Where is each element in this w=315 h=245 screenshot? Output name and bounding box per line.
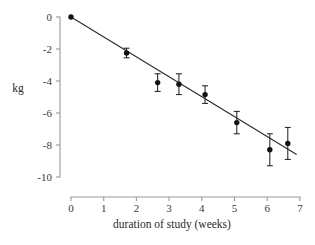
data-point-marker bbox=[124, 50, 129, 55]
x-tick-label: 4 bbox=[199, 202, 205, 214]
x-tick-label: 0 bbox=[68, 202, 74, 214]
data-point-marker bbox=[234, 120, 239, 125]
y-tick-label: -2 bbox=[43, 43, 52, 55]
error-bars bbox=[124, 48, 291, 166]
regression-line bbox=[71, 17, 297, 155]
x-tick-label: 2 bbox=[134, 202, 140, 214]
chart-container: 0-2-4-6-8-10 01234567 kg duration of stu… bbox=[0, 0, 315, 245]
data-point-marker bbox=[285, 141, 290, 146]
x-tick-label: 7 bbox=[297, 202, 303, 214]
y-tick-label: 0 bbox=[47, 11, 53, 23]
y-tick-label: -8 bbox=[43, 139, 53, 151]
data-point-marker bbox=[267, 147, 272, 152]
y-tick-label: -10 bbox=[37, 171, 52, 183]
regression-line-path bbox=[71, 17, 297, 155]
x-tick-label: 3 bbox=[166, 202, 172, 214]
y-axis: 0-2-4-6-8-10 bbox=[37, 11, 60, 183]
y-tick-label: -6 bbox=[43, 107, 53, 119]
x-tick-label: 1 bbox=[101, 202, 107, 214]
scatter-plot-svg: 0-2-4-6-8-10 01234567 kg duration of stu… bbox=[0, 0, 315, 245]
y-tick-label: -4 bbox=[43, 75, 53, 87]
data-point-marker bbox=[68, 14, 73, 19]
y-axis-title: kg bbox=[12, 82, 24, 95]
data-point-marker bbox=[202, 92, 207, 97]
x-axis-title: duration of study (weeks) bbox=[113, 218, 231, 231]
data-point-marker bbox=[176, 82, 181, 87]
x-tick-label: 5 bbox=[232, 202, 238, 214]
data-point-marker bbox=[155, 80, 160, 85]
x-axis: 01234567 bbox=[68, 197, 303, 214]
x-tick-label: 6 bbox=[264, 202, 270, 214]
